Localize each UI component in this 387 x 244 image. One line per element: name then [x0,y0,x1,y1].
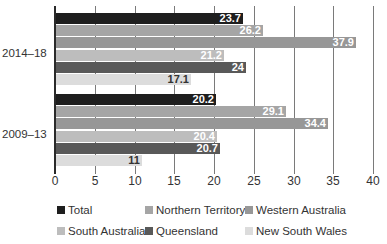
legend-swatch [57,206,65,214]
x-tick-label: 5 [80,174,110,188]
gridline [333,6,334,174]
x-tick-label: 40 [358,174,387,188]
gridline [373,6,374,174]
legend-label: Queensland [156,225,218,237]
bar-queensland: 24 [55,62,246,73]
legend-swatch [245,206,253,214]
bar-value-label: 29.1 [263,105,284,118]
bar-value-label: 24 [232,61,244,74]
bar-value-label: 21.2 [201,49,222,62]
legend-label: Total [68,204,92,216]
legend-label: South Australia [68,225,145,237]
bar-queensland: 20.7 [55,143,220,154]
legend-swatch [245,227,253,235]
bar-total: 20.2 [55,94,216,105]
x-tick-label: 15 [159,174,189,188]
legend-item: Western Australia [245,204,346,216]
legend-label: Northern Territory [156,204,245,216]
bar-value-label: 37.9 [333,36,354,49]
bar-value-label: 17.1 [168,73,189,86]
y-axis-line [54,6,56,174]
category-label: 2014–18 [2,47,47,59]
bar-value-label: 20.7 [197,142,218,155]
bar-south-australia: 21.2 [55,50,224,61]
bar-new-south-wales: 17.1 [55,74,191,85]
bar-northern-territory: 29.1 [55,106,286,117]
legend-swatch [57,227,65,235]
bar-new-south-wales: 11 [55,155,142,166]
bar-western-australia: 34.4 [55,118,328,129]
category-label: 2009–13 [2,128,47,140]
legend-label: New South Wales [256,225,347,237]
legend-item: New South Wales [245,225,347,237]
bar-value-label: 11 [128,154,140,167]
bar-value-label: 23.7 [220,12,241,25]
legend-item: Northern Territory [145,204,245,216]
bar-western-australia: 37.9 [55,37,356,48]
bar-value-label: 34.4 [305,117,326,130]
gridline [294,6,295,174]
x-tick-label: 30 [279,174,309,188]
x-tick-label: 0 [40,174,70,188]
x-tick-label: 25 [239,174,269,188]
x-tick-label: 35 [318,174,348,188]
bar-northern-territory: 26.2 [55,25,263,36]
legend-label: Western Australia [256,204,346,216]
bar-value-label: 26.2 [240,24,261,37]
x-tick-label: 10 [120,174,150,188]
legend-item: Queensland [145,225,218,237]
bar-chart: 05101520253035402014–1823.726.237.921.22… [0,0,387,244]
bar-value-label: 20.2 [193,93,214,106]
legend-swatch [145,206,153,214]
bar-total: 23.7 [55,13,243,24]
legend-swatch [145,227,153,235]
bar-south-australia: 20.4 [55,131,217,142]
x-tick-label: 20 [199,174,229,188]
legend-item: South Australia [57,225,145,237]
legend-item: Total [57,204,92,216]
